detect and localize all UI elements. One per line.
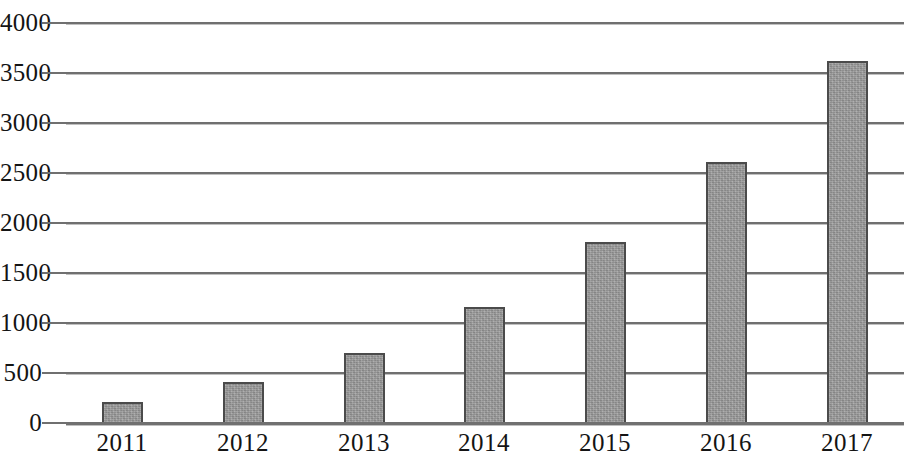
bar-2015[interactable] [585, 242, 626, 422]
y-tick-1500 [42, 272, 66, 274]
gridline-2000 [66, 222, 904, 224]
y-tick-2000 [42, 222, 66, 224]
bar-2013[interactable] [344, 353, 385, 422]
axis-baseline-0 [66, 422, 904, 425]
y-tick-label-1500: 1500 [0, 260, 42, 285]
x-tick-label-2012: 2012 [183, 428, 303, 458]
y-tick-0 [42, 422, 66, 424]
gridline-4000 [66, 22, 904, 24]
y-tick-2500 [42, 172, 66, 174]
y-tick-label-500: 500 [0, 360, 42, 385]
y-tick-label-4000: 4000 [0, 10, 42, 35]
bar-2017[interactable] [827, 61, 868, 422]
bar-2016[interactable] [706, 162, 747, 422]
y-tick-label-3500: 3500 [0, 60, 42, 85]
y-tick-label-3000: 3000 [0, 110, 42, 135]
y-tick-4000 [42, 22, 66, 24]
y-tick-label-2500: 2500 [0, 160, 42, 185]
x-tick-label-2016: 2016 [666, 428, 786, 458]
bar-2014[interactable] [464, 307, 505, 422]
y-tick-3000 [42, 122, 66, 124]
y-tick-1000 [42, 322, 66, 324]
plot-area [66, 22, 904, 422]
y-tick-500 [42, 372, 66, 374]
gridline-3500 [66, 72, 904, 74]
bar-2012[interactable] [223, 382, 264, 422]
x-tick-label-2011: 2011 [62, 428, 182, 458]
gridline-3000 [66, 122, 904, 124]
gridline-2500 [66, 172, 904, 174]
x-tick-label-2013: 2013 [304, 428, 424, 458]
bar-2011[interactable] [102, 402, 143, 422]
y-tick-3500 [42, 72, 66, 74]
gridline-1500 [66, 272, 904, 274]
x-axis-labels: 2011 2012 2013 2014 2015 2016 2017 [66, 428, 904, 462]
x-tick-label-2017: 2017 [787, 428, 904, 458]
x-tick-label-2015: 2015 [545, 428, 665, 458]
y-tick-label-1000: 1000 [0, 310, 42, 335]
y-tick-label-2000: 2000 [0, 210, 42, 235]
y-tick-label-0: 0 [0, 410, 42, 435]
bar-chart: 4000 3500 3000 2500 2000 1500 1000 500 0 [0, 0, 904, 462]
x-tick-label-2014: 2014 [424, 428, 544, 458]
y-axis-labels: 4000 3500 3000 2500 2000 1500 1000 500 0 [0, 0, 42, 462]
